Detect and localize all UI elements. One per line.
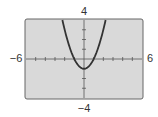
xmax-label: 6 [147, 52, 153, 64]
graphing-window: 4 −4 −6 6 [0, 0, 158, 117]
ymax-label: 4 [81, 5, 87, 17]
xmin-label: −6 [10, 52, 23, 64]
ymin-label: −4 [78, 102, 91, 114]
